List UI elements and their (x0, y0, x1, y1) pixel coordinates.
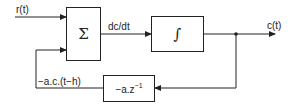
junction-dot (234, 32, 238, 36)
delay-label: −a.z−1 (115, 82, 142, 95)
integral-icon: ∫ (174, 25, 182, 43)
output-label: c(t) (267, 20, 281, 31)
input-label: r(t) (16, 4, 29, 15)
derivative-label: dc/dt (108, 21, 130, 32)
delay-exponent: −1 (135, 82, 143, 89)
sum-block: Σ (66, 7, 101, 61)
sigma-icon: Σ (78, 25, 89, 43)
feedback-label: −a.c.(t−h) (38, 76, 81, 87)
delay-block: −a.z−1 (103, 75, 155, 102)
integrator-block: ∫ (151, 16, 204, 52)
delay-gain: −a.z (115, 84, 134, 95)
